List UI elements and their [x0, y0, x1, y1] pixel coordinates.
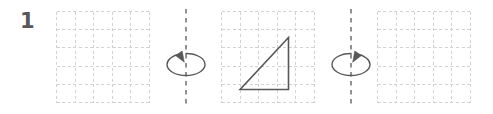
problem-number: 1 — [20, 9, 42, 33]
rotation-arrow-right-icon — [328, 8, 374, 107]
right-triangle-shape — [240, 38, 288, 90]
start-grid-panel[interactable] — [56, 11, 150, 103]
figure-grid — [221, 11, 315, 103]
worksheet-problem: 1 — [0, 0, 493, 114]
figure-grid-panel[interactable] — [221, 11, 315, 103]
end-grid-panel[interactable] — [377, 11, 471, 103]
start-grid — [56, 11, 150, 103]
rotation-arrowhead-left — [176, 51, 185, 62]
rotation-symbol-right — [328, 8, 374, 107]
rotation-arrowhead-right — [353, 51, 362, 62]
rotation-symbol-left — [163, 8, 209, 107]
end-grid — [377, 11, 471, 103]
rotation-arrow-left-icon — [163, 8, 209, 107]
